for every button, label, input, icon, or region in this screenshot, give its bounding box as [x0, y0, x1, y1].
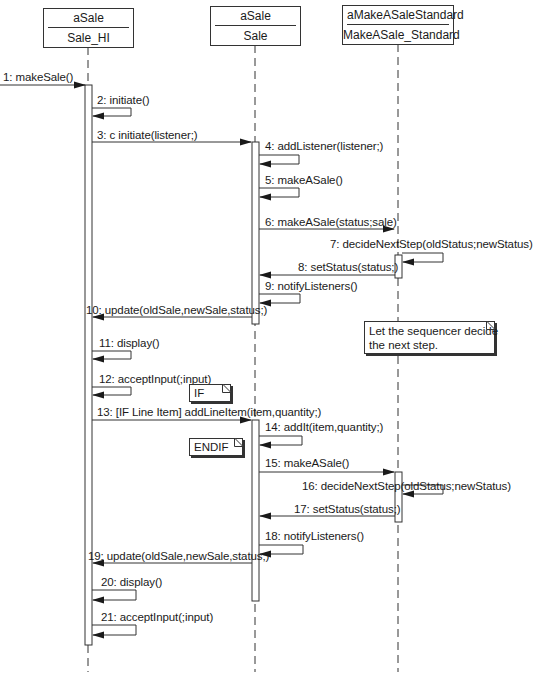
note-if: IF	[189, 384, 231, 402]
object-name: aSale	[215, 7, 296, 26]
message-label-10: 10: update(oldSale,newSale,status;)	[86, 304, 267, 317]
message-label-19: 19: update(oldSale,newSale,status;)	[88, 550, 269, 563]
message-label-14: 14: addIt(item,quantity;)	[265, 421, 383, 434]
note-fold-icon	[234, 438, 243, 447]
message-label-2: 2: initiate()	[97, 94, 149, 107]
activation-sale-2	[252, 420, 259, 601]
note-fold-icon	[222, 384, 231, 393]
object-box-sale-hi: aSale Sale_HI	[43, 8, 134, 48]
object-class: MakeASale_Standard	[343, 25, 453, 45]
note-if-text: IF	[194, 387, 204, 399]
message-label-15: 15: makeASale()	[265, 457, 349, 470]
message-label-3: 3: c initiate(listener;)	[97, 129, 198, 142]
message-label-9: 9: notifyListeners()	[265, 280, 358, 293]
object-class: Sale_HI	[44, 28, 133, 48]
note-sequencer: Let the sequencer decide the next step.	[364, 321, 495, 354]
note-text-line-1: Let the sequencer decide	[369, 324, 480, 338]
message-label-8: 8: setStatus(status;)	[298, 261, 398, 274]
activation-sale-1	[252, 142, 259, 324]
message-label-17: 17: setStatus(status;)	[294, 503, 400, 516]
object-class: Sale	[211, 26, 300, 46]
object-name: aSale	[48, 9, 129, 28]
message-label-4: 4: addListener(listener;)	[265, 140, 383, 153]
note-fold-icon	[486, 321, 495, 330]
object-name: aMakeASaleStandard	[347, 6, 449, 25]
message-label-18: 18: notifyListeners()	[265, 530, 364, 543]
message-label-5: 5: makeASale()	[265, 174, 343, 187]
note-endif: ENDIF	[189, 438, 243, 456]
message-label-13: 13: [IF Line Item] addLineItem(item,quan…	[97, 406, 321, 419]
message-label-6: 6: makeASale(status;sale)	[265, 216, 397, 229]
object-box-makeasale-standard: aMakeASaleStandard MakeASale_Standard	[342, 5, 454, 45]
object-box-sale: aSale Sale	[210, 6, 301, 46]
message-label-11: 11: display()	[99, 337, 160, 350]
message-label-20: 20: display()	[101, 576, 162, 589]
note-endif-text: ENDIF	[194, 441, 229, 453]
message-label-1: 1: makeSale()	[3, 71, 73, 84]
message-label-21: 21: acceptInput(;input)	[101, 611, 213, 624]
message-label-16: 16: decideNextStep(oldStatus;newStatus)	[302, 480, 511, 493]
message-label-7: 7: decideNextStep(oldStatus;newStatus)	[330, 238, 533, 251]
note-text-line-2: the next step.	[369, 338, 480, 352]
